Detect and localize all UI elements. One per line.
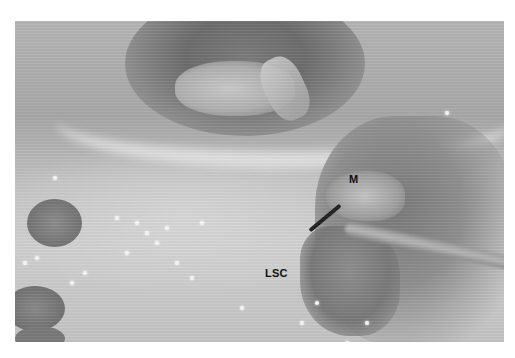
- sparkle: [83, 271, 87, 275]
- cavity-tissue: [175, 61, 295, 116]
- left-structure-3: [15, 326, 65, 342]
- sparkle: [155, 241, 159, 245]
- lower-tissue-mass: [300, 226, 400, 336]
- left-structure-2: [15, 286, 65, 331]
- sparkle: [53, 176, 57, 180]
- left-structure-1: [27, 199, 82, 247]
- cavity-flap: [253, 51, 317, 127]
- sparkle: [315, 301, 319, 305]
- sparkle: [23, 261, 27, 265]
- surgical-instrument: [344, 221, 504, 274]
- right-dark-region: [315, 116, 504, 342]
- sparkle: [190, 276, 194, 280]
- sparkle: [365, 321, 369, 325]
- bright-rim: [55, 71, 504, 169]
- photo-background: [15, 21, 504, 342]
- tissue-crack: [308, 204, 341, 233]
- sparkle: [200, 221, 204, 225]
- m-tissue: [325, 171, 405, 221]
- surgical-photo: [15, 21, 504, 342]
- sparkle: [300, 321, 304, 325]
- sparkle: [115, 216, 119, 220]
- sparkle: [135, 221, 139, 225]
- scanline-texture: [15, 21, 504, 342]
- sparkle: [240, 306, 244, 310]
- sparkle: [175, 261, 179, 265]
- label-lsc: LSC: [265, 268, 288, 279]
- sparkle: [70, 281, 74, 285]
- sparkle: [445, 111, 449, 115]
- sparkle: [35, 256, 39, 260]
- sparkle: [165, 226, 169, 230]
- label-m: M: [349, 174, 358, 185]
- sparkle: [125, 251, 129, 255]
- sparkle: [345, 341, 349, 342]
- sparkle: [145, 231, 149, 235]
- upper-cavity: [125, 21, 365, 136]
